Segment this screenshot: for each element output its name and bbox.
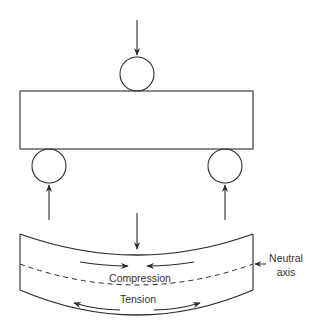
right-support-roller — [208, 149, 242, 183]
loading-roller — [120, 57, 154, 91]
compression-arrow-left — [80, 262, 128, 266]
compression-label: Compression — [109, 272, 171, 284]
left-support-roller — [32, 149, 66, 183]
specimen-beam — [20, 91, 253, 149]
tension-label: Tension — [120, 293, 156, 305]
neutral-axis-label-line2: axis — [277, 266, 296, 278]
bent-beam-setup: Compression Tension Neutral axis — [20, 213, 303, 315]
neutral-axis-label-line1: Neutral — [269, 252, 303, 264]
loading-setup — [20, 20, 253, 220]
bending-diagram: Compression Tension Neutral axis — [0, 0, 318, 330]
compression-arrow-right — [147, 262, 194, 266]
